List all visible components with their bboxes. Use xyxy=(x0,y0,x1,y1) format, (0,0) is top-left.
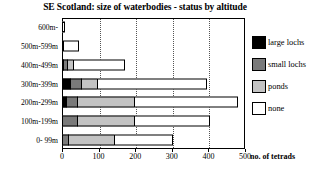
legend-swatch-1 xyxy=(252,58,266,71)
bar-row xyxy=(62,97,238,108)
x-axis-title: no. of tetrads xyxy=(250,152,295,161)
y-axis-label-3: 300m-399m xyxy=(0,79,58,88)
legend-swatch-3 xyxy=(252,102,266,115)
bar-segment xyxy=(62,115,77,126)
legend-swatch-0 xyxy=(252,36,266,49)
y-axis-label-1: 500m-599m xyxy=(0,42,58,51)
y-axis-labels: 600m-500m-599m400m-499m300m-399m200m-299… xyxy=(0,18,58,149)
legend-label-3: none xyxy=(268,104,284,113)
bar-segment xyxy=(73,59,125,70)
legend-item-1: small lochs xyxy=(252,54,328,74)
bar-segment xyxy=(68,134,114,145)
bar-segment xyxy=(66,97,77,108)
bar-segment xyxy=(70,78,81,89)
bar-row xyxy=(62,22,65,33)
bar-row xyxy=(62,78,207,89)
bar-segment xyxy=(114,134,173,145)
y-axis-label-0: 600m- xyxy=(0,23,58,32)
chart-legend: large lochssmall lochspondsnone xyxy=(252,32,328,120)
y-axis-label-4: 200m-299m xyxy=(0,98,58,107)
legend-item-2: ponds xyxy=(252,76,328,96)
bar-row xyxy=(62,115,210,126)
bar-segment xyxy=(134,97,238,108)
bar-segment xyxy=(77,115,134,126)
bar-segment xyxy=(77,97,134,108)
y-axis-label-2: 400m-499m xyxy=(0,60,58,69)
bar-segment xyxy=(134,115,210,126)
x-tick-label-0: 0 xyxy=(60,152,64,161)
bar-segment xyxy=(97,78,207,89)
legend-label-1: small lochs xyxy=(268,60,306,69)
legend-item-3: none xyxy=(252,98,328,118)
x-tick-label-300: 300 xyxy=(166,152,178,161)
waterbodies-bar-chart: SE Scotland: size of waterbodies - statu… xyxy=(0,0,329,175)
chart-title: SE Scotland: size of waterbodies - statu… xyxy=(0,2,290,12)
x-tick-label-100: 100 xyxy=(93,152,105,161)
bar-row xyxy=(62,41,79,52)
x-tick-label-400: 400 xyxy=(202,152,214,161)
bar-segment xyxy=(81,78,97,89)
bar-segment xyxy=(63,41,79,52)
bar-series-container xyxy=(62,18,245,149)
bar-segment xyxy=(62,78,70,89)
legend-item-0: large lochs xyxy=(252,32,328,52)
legend-label-2: ponds xyxy=(268,82,288,91)
bar-segment xyxy=(62,22,65,33)
bar-row xyxy=(62,59,125,70)
legend-label-0: large lochs xyxy=(268,38,304,47)
bar-row xyxy=(62,134,173,145)
x-tick-label-200: 200 xyxy=(129,152,141,161)
legend-swatch-2 xyxy=(252,80,266,93)
y-axis-label-5: 100m-199m xyxy=(0,116,58,125)
y-axis-label-6: 0- 99m xyxy=(0,135,58,144)
